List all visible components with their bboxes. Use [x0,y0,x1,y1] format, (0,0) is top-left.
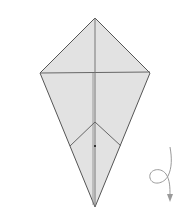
origami-diagram [0,0,179,213]
kite-paper [40,18,150,207]
turn-over-arrow-icon [150,147,173,202]
center-mark [94,145,96,147]
